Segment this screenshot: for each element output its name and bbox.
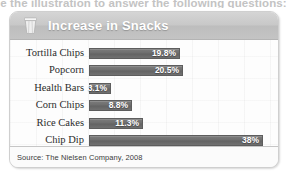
bar-corn-chips: 8.8% [89,100,132,111]
bar-value: 3.1% [88,84,110,93]
popcorn-cup-icon [18,17,42,34]
bar-row: Popcorn 20.5% [10,63,278,79]
bar-value: 38% [242,136,262,145]
bar-health-bars: 3.1% [89,83,111,94]
bar-value: 19.8% [152,49,179,58]
bar-rice-cakes: 11.3% [89,118,143,129]
bar-row: Corn Chips 8.8% [10,98,278,114]
source-note: Source: The Nielsen Company, 2008 [17,153,143,162]
bar-row: Tortilla Chips 19.8% [10,45,278,61]
bar-label: Rice Cakes [10,118,89,129]
bar-value: 8.8% [109,101,131,110]
card-title: Increase in Snacks [48,18,169,33]
bar-label: Chip Dip [10,135,89,146]
bar-value: 20.5% [155,66,182,75]
bar-label: Tortilla Chips [10,48,89,59]
bar-chart: Tortilla Chips 19.8% Popcorn 20.5% Healt… [10,39,278,144]
bar-value: 11.3% [115,119,142,128]
bar-row: Health Bars 3.1% [10,80,278,96]
page-cutoff-text: e the illustration to answer the followi… [0,0,287,8]
bar-label: Corn Chips [10,100,89,111]
bar-row: Rice Cakes 11.3% [10,115,278,131]
card-footer: Source: The Nielsen Company, 2008 [10,146,278,167]
bar-tortilla-chips: 19.8% [89,48,180,59]
bar-chip-dip: 38% [89,135,263,146]
infographic-card: Increase in Snacks Tortilla Chips 19.8% … [9,11,279,168]
bar-popcorn: 20.5% [89,65,183,76]
bar-label: Popcorn [10,65,89,76]
bar-label: Health Bars [10,83,89,94]
card-header: Increase in Snacks [10,12,278,40]
